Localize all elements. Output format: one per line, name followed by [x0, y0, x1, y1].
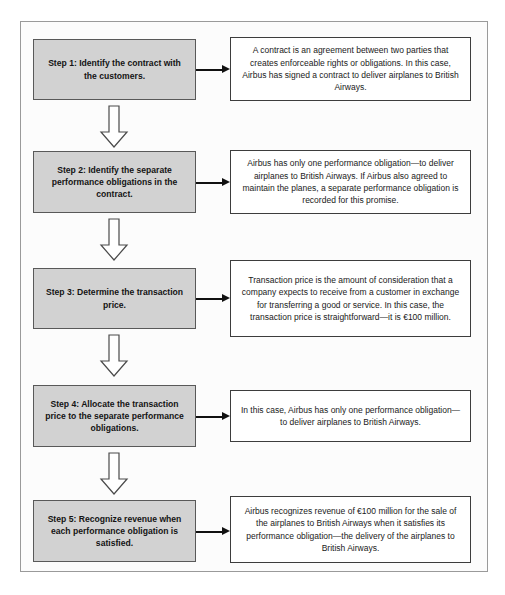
step-box-4[interactable]: Step 4: Allocate the transaction price t… — [33, 385, 196, 447]
arrow-shaft — [196, 182, 223, 184]
detail-box-5: Airbus recognizes revenue of €100 millio… — [230, 496, 471, 563]
arrow-right-icon-1 — [196, 65, 230, 74]
detail-box-2: Airbus has only one performance obligati… — [230, 150, 471, 214]
step-box-1[interactable]: Step 1: Identify the contract with the c… — [33, 39, 196, 100]
arrow-shaft — [196, 298, 223, 300]
arrow-head — [222, 178, 230, 186]
arrow-down-icon-1 — [99, 105, 129, 149]
arrow-right-icon-4 — [196, 412, 230, 421]
arrow-down-icon-3 — [99, 334, 129, 378]
arrow-shaft — [196, 531, 223, 533]
arrow-head — [222, 527, 230, 535]
arrow-right-icon-2 — [196, 178, 230, 187]
arrow-down-icon-4 — [99, 452, 129, 496]
step-box-3[interactable]: Step 3: Determine the transaction price. — [33, 268, 196, 329]
arrow-shaft — [196, 416, 223, 418]
detail-box-3: Transaction price is the amount of consi… — [230, 260, 471, 337]
arrow-head — [222, 412, 230, 420]
arrow-right-icon-5 — [196, 527, 230, 536]
arrow-shaft — [196, 69, 223, 71]
arrow-head — [222, 65, 230, 73]
detail-box-4: In this case, Airbus has only one perfor… — [230, 390, 471, 442]
step-box-2[interactable]: Step 2: Identify the separate performanc… — [33, 151, 196, 213]
arrow-head — [222, 294, 230, 302]
detail-box-1: A contract is an agreement between two p… — [230, 37, 471, 101]
arrow-down-icon-2 — [99, 218, 129, 262]
arrow-right-icon-3 — [196, 294, 230, 303]
step-box-5[interactable]: Step 5: Recognize revenue when each perf… — [33, 500, 196, 562]
revenue-recognition-flowchart: Step 1: Identify the contract with the c… — [20, 21, 488, 572]
